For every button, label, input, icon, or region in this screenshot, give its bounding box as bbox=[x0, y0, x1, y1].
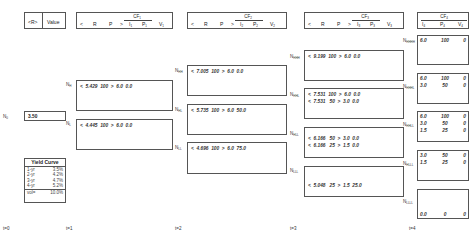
v-value: 0 bbox=[463, 160, 466, 165]
header-col-4: I3 bbox=[357, 21, 360, 28]
cashflow-row: < 4.445 100 > 6.0 0.0 bbox=[80, 123, 132, 128]
header-col-2: P bbox=[109, 21, 112, 27]
header-col-2: P bbox=[220, 21, 223, 27]
node-box-nhhhl: 6.010003.0500 bbox=[417, 73, 469, 104]
vol-label: vol= bbox=[27, 190, 35, 196]
header-col-0: < bbox=[191, 21, 194, 27]
node-label-nllll: NLLLL bbox=[403, 199, 413, 205]
node-label-n0: N0 bbox=[3, 114, 8, 120]
cashflow-row: < 4.696 100 > 6.0 75.0 bbox=[191, 146, 246, 151]
node-box-nlll: < 5.048 25 > 1.5 25.0 bbox=[304, 166, 404, 197]
cf-underline bbox=[352, 20, 380, 21]
p-value: 25 bbox=[442, 160, 447, 165]
yield-curve-rows: 1-yr3.5%2-yr4.2%3-yr4.7%4-yr5.2% bbox=[25, 167, 65, 189]
node-label-nhhhh: NHHHH bbox=[403, 38, 415, 44]
cashflow-row: < 6.166 25 > 1.5 0.0 bbox=[308, 143, 359, 148]
timeline-t4: t=4 bbox=[409, 226, 415, 231]
node-label-nhhll: NHHLL bbox=[403, 122, 414, 128]
cashflow-row: < 5.735 100 > 6.0 50.0 bbox=[191, 108, 246, 113]
node-box-nhll: < 6.166 50 > 3.0 0.0< 6.166 25 > 1.5 0.0 bbox=[304, 127, 404, 158]
i-value: 0.0 bbox=[420, 212, 427, 217]
cashflow-row: 3.0500 bbox=[420, 153, 466, 158]
node-label-nhh: NHH bbox=[175, 68, 183, 74]
cashflow-row: < 7.531 50 > 3.0 0.0 bbox=[308, 99, 359, 104]
cashflow-row: < 7.531 100 > 6.0 0.0 bbox=[308, 92, 360, 97]
cashflow-row: 6.01000 bbox=[420, 76, 466, 81]
cashflow-row: < 6.166 50 > 3.0 0.0 bbox=[308, 136, 359, 141]
v-value: 0 bbox=[463, 121, 466, 126]
header-col-0: I4 bbox=[422, 21, 425, 28]
header-col-4: I1 bbox=[129, 21, 132, 28]
p-value: 100 bbox=[441, 38, 449, 43]
i-value: 1.5 bbox=[420, 128, 427, 133]
header-col-6: V3 bbox=[387, 21, 392, 28]
node-box-nl: < 4.445 100 > 6.0 0.0 bbox=[76, 119, 173, 150]
root-value-box: 3.50 bbox=[24, 111, 66, 121]
p-value: 100 bbox=[441, 76, 449, 81]
header-col-3: > bbox=[120, 21, 123, 27]
node-label-nl: NL bbox=[66, 121, 71, 127]
node-label-nhll: NHLL bbox=[290, 131, 299, 137]
timeline-t1: t=1 bbox=[66, 226, 72, 231]
i-value: 3.0 bbox=[420, 153, 427, 158]
header-divider bbox=[42, 13, 43, 28]
node-box-nllll: 0.000 bbox=[417, 189, 469, 219]
v-value: 0 bbox=[463, 114, 466, 119]
node-label-nhhl: NHHL bbox=[290, 92, 299, 98]
cashflow-row: 3.0500 bbox=[420, 83, 466, 88]
cashflow-row: 3.0500 bbox=[420, 121, 466, 126]
timeline-t2: t=2 bbox=[175, 226, 181, 231]
header-col-3: > bbox=[348, 21, 351, 27]
node-box-nll: < 4.696 100 > 6.0 75.0 bbox=[187, 142, 287, 174]
cashflow-row: < 5.048 25 > 1.5 25.0 bbox=[308, 183, 362, 188]
p-value: 0 bbox=[444, 212, 447, 217]
header-col-2: V4 bbox=[458, 21, 463, 28]
header-cf1: <RP>I1P1V1CF1 bbox=[76, 12, 173, 29]
cashflow-row: 6.01000 bbox=[420, 38, 466, 43]
header-col-5: P2 bbox=[253, 21, 258, 28]
header-cf3: <RP>I3P3V3CF3 bbox=[304, 12, 404, 29]
p-value: 50 bbox=[442, 153, 447, 158]
i-value: 6.0 bbox=[420, 76, 427, 81]
node-box-nhhll: 6.010003.05001.5250 bbox=[417, 111, 469, 142]
i-value: 1.5 bbox=[420, 160, 427, 165]
v-value: 0 bbox=[463, 83, 466, 88]
header-col-6: V1 bbox=[159, 21, 164, 28]
cashflow-row: < 9.199 100 > 6.0 0.0 bbox=[308, 54, 360, 59]
node-box-nhhl: < 7.531 100 > 6.0 0.0< 7.531 50 > 3.0 0.… bbox=[304, 88, 404, 119]
node-box-nhl: < 5.735 100 > 6.0 50.0 bbox=[187, 104, 287, 135]
node-label-nhlll: NHLLL bbox=[403, 161, 413, 167]
p-value: 100 bbox=[441, 114, 449, 119]
header-col-5: P3 bbox=[370, 21, 375, 28]
header-col-5: P1 bbox=[142, 21, 147, 28]
vol-value: 10.0% bbox=[50, 190, 63, 196]
header-col-2: P bbox=[337, 21, 340, 27]
timeline-t3: t=3 bbox=[290, 226, 296, 231]
node-label-nhhh: NHHH bbox=[290, 54, 300, 60]
header-r-label: <R> bbox=[28, 19, 37, 25]
v-value: 0 bbox=[463, 212, 466, 217]
v-value: 0 bbox=[463, 76, 466, 81]
header-col-1: R bbox=[93, 21, 97, 27]
header-col-1: R bbox=[321, 21, 325, 27]
header-r-value: <R> Value bbox=[24, 12, 66, 29]
v-value: 0 bbox=[463, 128, 466, 133]
header-col-1: R bbox=[204, 21, 208, 27]
i-value: 3.0 bbox=[420, 83, 427, 88]
yield-curve-title: Yield Curve bbox=[25, 159, 65, 167]
p-value: 50 bbox=[442, 83, 447, 88]
header-col-4: I2 bbox=[240, 21, 243, 28]
node-label-nll: NLL bbox=[175, 145, 182, 151]
node-box-nhlll: 3.05001.5250 bbox=[417, 150, 469, 181]
i-value: 6.0 bbox=[420, 114, 427, 119]
i-value: 6.0 bbox=[420, 38, 427, 43]
node-label-nh: NH bbox=[66, 82, 71, 88]
cashflow-row: < 7.005 100 > 6.0 0.0 bbox=[191, 69, 243, 74]
node-label-nhhhl: NHHHL bbox=[403, 84, 414, 90]
header-col-1: P4 bbox=[440, 21, 445, 28]
node-label-nhl: NHL bbox=[175, 107, 182, 113]
header-value-label: Value bbox=[47, 19, 59, 25]
cashflow-row: < 5.429 100 > 6.0 0.0 bbox=[80, 84, 132, 89]
cf-underline bbox=[421, 20, 467, 21]
node-label-nlll: NLLL bbox=[290, 168, 298, 174]
